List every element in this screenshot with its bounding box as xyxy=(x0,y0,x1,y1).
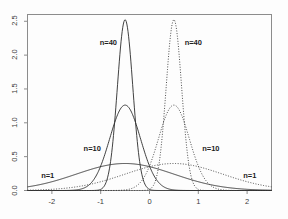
x-tick-label: 2 xyxy=(242,197,252,206)
chart-plot-area xyxy=(0,0,288,219)
y-tick-label: 2.0 xyxy=(9,45,18,65)
x-tick-label: -2 xyxy=(47,197,57,206)
x-tick-label: 0 xyxy=(145,197,155,206)
density-curve xyxy=(28,163,272,190)
y-tick-label: 1.0 xyxy=(9,112,18,132)
curve-label-n1-right: n=1 xyxy=(243,171,256,180)
y-axis-ticks xyxy=(24,21,28,190)
x-tick-label: 1 xyxy=(193,197,203,206)
x-tick-label: -1 xyxy=(96,197,106,206)
curve-label-n10-left: n=10 xyxy=(84,144,101,153)
x-axis-ticks xyxy=(52,191,247,195)
frame-box xyxy=(28,15,272,191)
curve-label-n1-left: n=1 xyxy=(41,171,54,180)
density-curve xyxy=(28,163,272,190)
y-tick-label: 0.5 xyxy=(9,146,18,166)
plot-frame xyxy=(28,15,272,191)
y-tick-label: 0.0 xyxy=(9,180,18,200)
curve-label-n40-right: n=40 xyxy=(185,38,202,47)
y-tick-label: 1.5 xyxy=(9,78,18,98)
chart-figure: -2-1012 0.00.51.01.52.02.5 n=40n=40n=10n… xyxy=(0,0,288,219)
y-tick-label: 2.5 xyxy=(9,11,18,31)
density-curves xyxy=(28,20,272,191)
curve-label-n40-left: n=40 xyxy=(100,38,117,47)
curve-label-n10-right: n=10 xyxy=(202,144,219,153)
